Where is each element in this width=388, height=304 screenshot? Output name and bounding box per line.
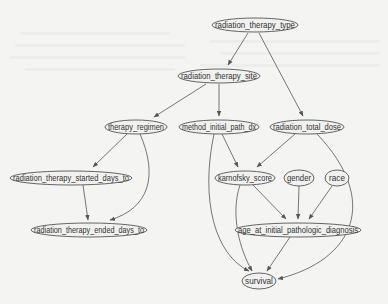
node-label: radiation_therapy_ended_days_to — [34, 226, 144, 235]
node-label: radiation_therapy_type — [215, 21, 295, 30]
node-label: age_at_initial_pathologic_diagnosis — [238, 226, 358, 235]
edge-therapy_regimen-to-radiation_therapy_started_days_to — [93, 134, 127, 167]
node-label: radiation_total_dose — [273, 123, 341, 132]
node-label: therapy_regimen — [108, 123, 164, 132]
node-radiation_therapy_site: radiation_therapy_site — [178, 69, 260, 83]
node-radiation_total_dose: radiation_total_dose — [270, 120, 344, 134]
node-survival: survival — [242, 273, 276, 289]
edge-radiation_therapy_type-to-radiation_total_dose — [259, 33, 303, 116]
node-label: radiation_therapy_site — [181, 72, 257, 81]
causal-graph: radiation_therapy_typeradiation_therapy_… — [0, 0, 388, 304]
edge-radiation_therapy_site-to-therapy_regimen — [154, 84, 206, 117]
node-label: race — [329, 174, 345, 183]
edge-age_at_initial_pathologic_diagnosis-to-survival — [267, 237, 290, 271]
edge-method_initial_path_dx-to-karnofsky_score — [222, 134, 238, 167]
node-karnofsky_score: karnofsky_score — [215, 171, 275, 185]
edge-radiation_therapy_started_days_to-to-radiation_therapy_ended_days_to — [83, 185, 88, 220]
node-age_at_initial_pathologic_diagnosis: age_at_initial_pathologic_diagnosis — [235, 223, 361, 237]
edge-radiation_total_dose-to-karnofsky_score — [257, 134, 295, 167]
node-label: survival — [245, 277, 273, 286]
edge-gender-to-age_at_initial_pathologic_diagnosis — [298, 186, 299, 219]
node-method_initial_path_dx: method_initial_path_dx — [179, 120, 259, 134]
edge-radiation_total_dose-to-survival — [278, 134, 353, 279]
node-race: race — [325, 170, 349, 186]
node-label: radiation_therapy_started_days_to — [13, 174, 129, 183]
scan-texture — [10, 32, 380, 71]
node-radiation_therapy_ended_days_to: radiation_therapy_ended_days_to — [31, 223, 147, 237]
node-radiation_therapy_started_days_to: radiation_therapy_started_days_to — [10, 171, 132, 185]
node-therapy_regimen: therapy_regimen — [105, 120, 167, 134]
node-radiation_therapy_type: radiation_therapy_type — [212, 18, 298, 32]
diagram-canvas: radiation_therapy_typeradiation_therapy_… — [0, 0, 388, 304]
node-label: gender — [287, 174, 311, 183]
node-label: karnofsky_score — [218, 174, 272, 183]
edge-race-to-age_at_initial_pathologic_diagnosis — [309, 186, 332, 219]
edge-radiation_therapy_type-to-radiation_therapy_site — [228, 33, 248, 65]
node-label: method_initial_path_dx — [182, 123, 256, 132]
node-gender: gender — [284, 170, 314, 186]
edge-karnofsky_score-to-age_at_initial_pathologic_diagnosis — [253, 185, 286, 219]
